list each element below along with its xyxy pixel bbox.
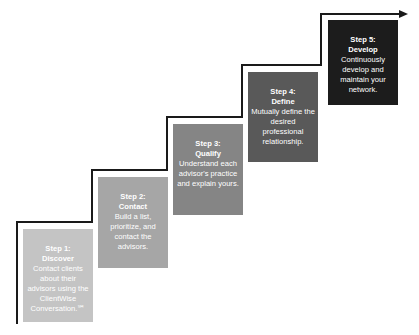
step-2-box: Step 2: Contact Build a list, prioritize… bbox=[98, 177, 168, 268]
step-4-box: Step 4: Define Mutually define the desir… bbox=[248, 72, 318, 162]
step-1-box: Step 1: Discover Contact clients about t… bbox=[23, 229, 93, 322]
step-1-number: Step 1: bbox=[23, 244, 93, 254]
step-5-box: Step 5: Develop Continuously develop and… bbox=[328, 20, 398, 105]
stair-line-vertical-1 bbox=[16, 221, 18, 324]
step-4-number: Step 4: bbox=[248, 87, 318, 97]
step-4-name: Define bbox=[248, 97, 318, 107]
stair-line-horizontal-1 bbox=[16, 221, 93, 223]
stair-line-horizontal-3 bbox=[166, 116, 243, 118]
step-2-description: Build a list, prioritize, and contact th… bbox=[98, 212, 168, 252]
stair-line-vertical-3 bbox=[166, 116, 168, 171]
stair-line-horizontal-2 bbox=[91, 169, 168, 171]
stair-line-horizontal-5 bbox=[320, 13, 400, 15]
step-2-number: Step 2: bbox=[98, 192, 168, 202]
step-1-name: Discover bbox=[23, 254, 93, 264]
arrow-right-icon bbox=[399, 10, 408, 18]
stair-line-vertical-4 bbox=[241, 64, 243, 118]
step-5-name: Develop bbox=[328, 45, 398, 55]
step-3-box: Step 3: Qualify Understand each advisor'… bbox=[173, 124, 243, 215]
step-4-description: Mutually define the desired professional… bbox=[248, 107, 318, 147]
step-3-description: Understand each advisor's practice and e… bbox=[173, 159, 243, 189]
stair-line-vertical-5 bbox=[320, 13, 322, 66]
step-3-name: Qualify bbox=[173, 149, 243, 159]
step-5-description: Continuously develop and maintain your n… bbox=[328, 55, 398, 95]
step-1-description: Contact clients about their advisors usi… bbox=[23, 264, 93, 314]
step-2-name: Contact bbox=[98, 202, 168, 212]
stair-line-horizontal-4 bbox=[241, 64, 322, 66]
stair-line-vertical-2 bbox=[91, 169, 93, 223]
step-5-number: Step 5: bbox=[328, 35, 398, 45]
step-3-number: Step 3: bbox=[173, 139, 243, 149]
